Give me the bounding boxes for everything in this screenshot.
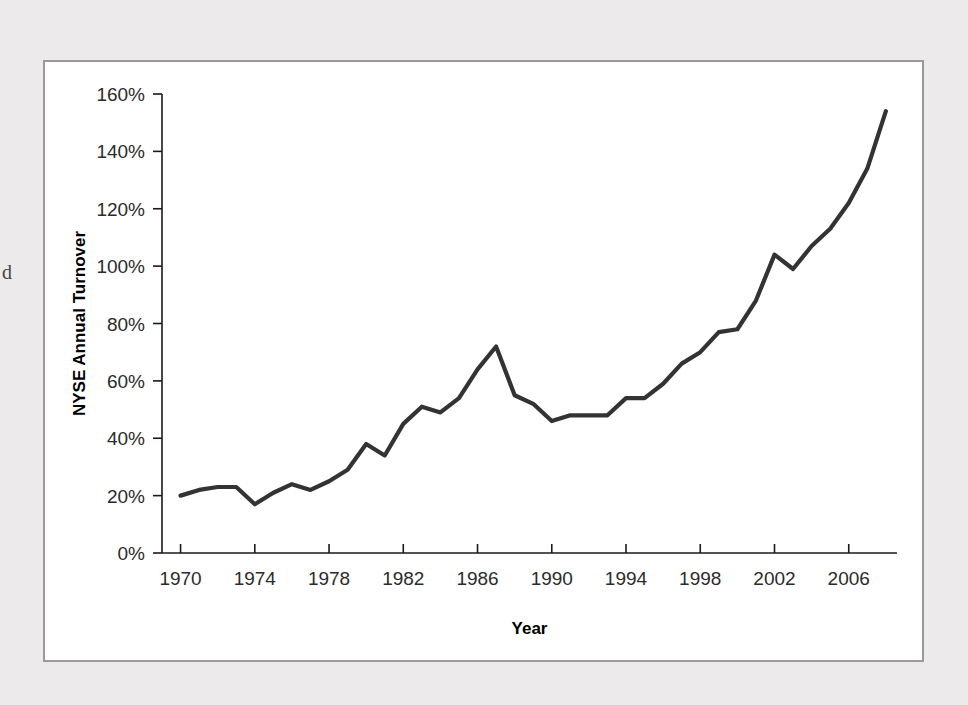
x-axis-title: Year bbox=[512, 619, 548, 638]
x-tick-label: 1986 bbox=[456, 568, 498, 589]
y-axis-tick-marks bbox=[153, 94, 162, 553]
y-axis-title: NYSE Annual Turnover bbox=[70, 231, 89, 417]
x-tick-label: 1994 bbox=[605, 568, 648, 589]
chart-area: 0%20%40%60%80%100%120%140%160% 197019741… bbox=[45, 62, 926, 664]
figure-frame: 0%20%40%60%80%100%120%140%160% 197019741… bbox=[43, 60, 924, 662]
y-tick-label: 40% bbox=[107, 428, 145, 449]
x-tick-label: 2002 bbox=[753, 568, 795, 589]
x-tick-label: 1998 bbox=[679, 568, 721, 589]
line-chart-svg: 0%20%40%60%80%100%120%140%160% 197019741… bbox=[45, 62, 922, 660]
y-tick-label: 20% bbox=[107, 486, 145, 507]
x-tick-label: 1990 bbox=[531, 568, 573, 589]
x-axis-tick-marks bbox=[181, 544, 849, 553]
y-tick-label: 120% bbox=[96, 199, 145, 220]
x-tick-label: 1974 bbox=[234, 568, 277, 589]
y-axis-tick-labels: 0%20%40%60%80%100%120%140%160% bbox=[96, 84, 145, 564]
page-margin-text-bleed: d bbox=[2, 262, 12, 282]
y-tick-label: 80% bbox=[107, 314, 145, 335]
x-tick-label: 2006 bbox=[828, 568, 870, 589]
y-tick-label: 0% bbox=[118, 543, 146, 564]
x-tick-label: 1978 bbox=[308, 568, 350, 589]
x-tick-label: 1982 bbox=[382, 568, 424, 589]
y-tick-label: 60% bbox=[107, 371, 145, 392]
y-tick-label: 100% bbox=[96, 256, 145, 277]
x-tick-label: 1970 bbox=[159, 568, 201, 589]
y-tick-label: 140% bbox=[96, 141, 145, 162]
y-tick-label: 160% bbox=[96, 84, 145, 105]
x-axis-tick-labels: 1970197419781982198619901994199820022006 bbox=[159, 568, 869, 589]
data-series-line bbox=[181, 111, 886, 504]
